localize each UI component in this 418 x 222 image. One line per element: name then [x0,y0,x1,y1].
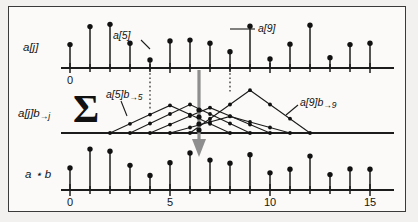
stem-dot [187,150,192,155]
stem-dot [87,146,92,151]
annotation-kernel9-sub: →9 [323,100,336,110]
annotation-a9: a[9] [258,23,276,34]
stem-dot [127,163,132,168]
annotation-kernel9-main: a[9]b [300,96,323,108]
axis-tick-label: 0 [56,197,84,208]
stem-dot [267,170,272,175]
stem-dot [107,149,112,154]
axis-tick-label: 10 [256,197,284,208]
axis-tick-label: 5 [156,197,184,208]
row-label-top: a[j] [23,42,38,54]
annotation-a5: a[5] [113,30,131,41]
stem-dot [67,165,72,170]
convolution-figure: a[j] a[j]b→j a ⋆ b Σ a[5] a[9] a[5]b→5 a… [8,6,406,212]
row-label-middle-main: a[j]b [18,107,40,119]
bottom-panel-svg [9,7,406,212]
axis-tick-label: 0 [56,75,84,86]
annotation-kernel9: a[9]b→9 [300,97,337,109]
stem-dot [327,172,332,177]
stem-dot [347,166,352,171]
row-label-middle-sub: →j [40,111,50,121]
stem-dot [147,173,152,178]
row-label-bottom: a ⋆ b [25,169,51,181]
row-label-middle: a[j]b→j [18,108,50,120]
axis-tick-label: 15 [356,197,384,208]
annotation-kernel5-main: a[5]b [106,88,129,100]
stem-dot [287,167,292,172]
stem-dot [367,167,372,172]
annotation-kernel5: a[5]b→5 [106,89,143,101]
stem-dot [307,153,312,158]
stem-dot [227,160,232,165]
summation-sigma-symbol: Σ [73,89,99,129]
panel-bottom-result [9,7,405,211]
annotation-kernel5-sub: →5 [129,92,142,102]
stem-dot [247,152,252,157]
stem-dot [207,157,212,162]
bottom-stem-group [67,146,372,190]
stem-dot [167,160,172,165]
